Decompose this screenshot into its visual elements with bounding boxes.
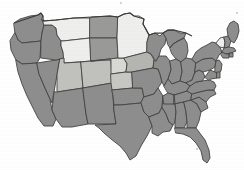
state-WY[interactable] <box>61 38 91 63</box>
state-RI[interactable] <box>230 53 233 57</box>
state-ND[interactable] <box>90 16 118 38</box>
us-states-map <box>0 0 244 170</box>
us-choropleth-map-figure <box>0 0 244 170</box>
state-NM[interactable] <box>83 83 116 124</box>
state-DE[interactable] <box>217 72 220 78</box>
state-AZ[interactable] <box>52 88 88 127</box>
state-OK[interactable] <box>112 88 144 105</box>
state-UT[interactable] <box>57 58 83 92</box>
state-SD[interactable] <box>90 38 118 61</box>
state-FL[interactable] <box>175 128 210 163</box>
state-KS[interactable] <box>111 72 133 90</box>
